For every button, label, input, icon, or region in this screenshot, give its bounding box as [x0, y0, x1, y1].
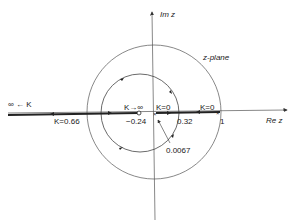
label-neg024: −0.24: [126, 117, 147, 126]
label-032: 0.32: [177, 117, 193, 126]
real-axis-label: Re z: [266, 116, 282, 125]
real-axis: [8, 110, 287, 113]
label-k066: K=0.66: [54, 117, 80, 126]
label-inf-to-k: ∞ ← K: [8, 100, 32, 109]
pointer-line: [158, 120, 170, 143]
label-k0-left: K=0: [156, 103, 171, 112]
label-k0-right: K=0: [200, 103, 215, 112]
label-kinf: K→∞: [124, 103, 143, 112]
locus-real-left: [8, 113, 139, 115]
imag-axis-label: Im z: [160, 10, 175, 19]
locus-real-right: [156, 112, 220, 113]
root-locus-diagram: × × Im z Re z z-plane ∞ ← K K=0.66 K→∞ K…: [0, 0, 293, 223]
label-00067: 0.0067: [166, 146, 191, 155]
label-1: 1: [220, 117, 225, 126]
plane-label: z-plane: [202, 53, 230, 62]
pole-marker: ×: [216, 110, 220, 116]
